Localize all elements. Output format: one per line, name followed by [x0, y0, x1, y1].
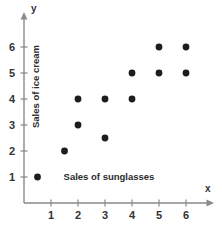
y-tick-label: 5: [9, 67, 15, 79]
data-point: [75, 122, 82, 129]
data-points-layer: [34, 44, 189, 181]
scatter-plot-figure: 123456 123456 y x Sales of ice cream Sal…: [0, 0, 222, 226]
y-axis-symbol-label: y: [31, 3, 37, 14]
plot-canvas: 123456 123456 y x Sales of ice cream Sal…: [0, 0, 222, 226]
x-axis-title: Sales of sunglasses: [64, 171, 155, 182]
data-point: [102, 96, 109, 103]
data-point: [61, 148, 68, 155]
x-tick-label: 5: [156, 209, 162, 221]
x-tick-label: 1: [48, 209, 54, 221]
data-point: [34, 174, 41, 181]
x-axis-arrow-icon: [207, 200, 215, 207]
y-tick-label: 4: [9, 93, 16, 105]
y-tick-label: 2: [9, 145, 15, 157]
x-tick-label: 6: [183, 209, 189, 221]
data-point: [183, 44, 190, 51]
data-point: [156, 70, 163, 77]
y-tick-label: 3: [9, 119, 15, 131]
y-axis-arrow-icon: [21, 12, 28, 20]
y-tick-label: 6: [9, 41, 15, 53]
y-tick-label: 1: [9, 171, 15, 183]
x-tick-label: 4: [129, 209, 136, 221]
x-tick-label: 3: [102, 209, 108, 221]
data-point: [75, 96, 82, 103]
data-point: [102, 135, 109, 142]
data-point: [129, 96, 136, 103]
x-tick-label: 2: [75, 209, 81, 221]
data-point: [183, 70, 190, 77]
y-axis-ticks: 123456: [9, 41, 28, 183]
data-point: [129, 70, 136, 77]
y-axis-title: Sales of ice cream: [30, 45, 41, 128]
x-axis-symbol-label: x: [205, 183, 211, 194]
data-point: [156, 44, 163, 51]
